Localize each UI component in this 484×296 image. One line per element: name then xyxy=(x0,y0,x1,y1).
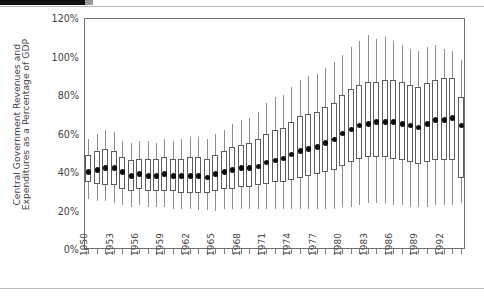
x-axis-tick xyxy=(461,249,462,254)
x-axis-tick xyxy=(351,249,352,254)
x-axis-tick-label: 1953 xyxy=(105,233,115,256)
x-axis-tick-label: 1974 xyxy=(282,233,292,256)
y-axis-tick-label: 120% xyxy=(52,13,79,24)
x-axis-tick xyxy=(97,249,98,254)
box-iqr xyxy=(458,97,463,178)
x-axis-tick-label: 1971 xyxy=(257,233,267,256)
chart-page: Central Government Revenues and Expendit… xyxy=(0,0,484,296)
x-axis-tick-label: 1950 xyxy=(79,233,89,256)
x-axis-tick-label: 1992 xyxy=(435,233,445,256)
x-axis-tick-label: 1980 xyxy=(333,233,343,256)
x-axis-tick-label: 1989 xyxy=(409,233,419,256)
y-axis-tick-label: 80% xyxy=(58,90,79,101)
x-axis-tick xyxy=(300,249,301,254)
y-axis-tick-label: 20% xyxy=(58,205,79,216)
x-axis-tick xyxy=(427,249,428,254)
plot-canvas xyxy=(84,18,465,249)
x-axis-tick-label: 1986 xyxy=(384,233,394,256)
y-axis-title: Central Government Revenues and Expendit… xyxy=(0,0,44,250)
y-axis-tick-label: 40% xyxy=(58,167,79,178)
y-axis-title-line-2: Expenditures as a Percentage of GDP xyxy=(21,39,30,210)
x-axis-tick xyxy=(402,249,403,254)
x-axis-labels: 1950195319561959196219651968197119741977… xyxy=(0,256,484,290)
y-axis-tick-label: 100% xyxy=(52,51,79,62)
x-axis-tick xyxy=(122,249,123,254)
x-axis-tick-label: 1959 xyxy=(155,233,165,256)
x-axis-tick-label: 1956 xyxy=(130,233,140,256)
x-axis-tick xyxy=(173,249,174,254)
x-axis-tick xyxy=(148,249,149,254)
x-axis-tick xyxy=(452,249,453,254)
x-axis-tick-label: 1983 xyxy=(359,233,369,256)
bottom-horizontal-rule xyxy=(0,288,484,289)
x-axis-tick xyxy=(376,249,377,254)
x-axis-tick xyxy=(325,249,326,254)
x-axis-tick xyxy=(224,249,225,254)
x-axis-tick xyxy=(275,249,276,254)
x-axis-tick xyxy=(249,249,250,254)
x-axis-tick-label: 1977 xyxy=(308,233,318,256)
x-axis-tick-label: 1968 xyxy=(232,233,242,256)
x-axis-tick-label: 1965 xyxy=(206,233,216,256)
box-whisker-group xyxy=(84,18,465,249)
x-axis-tick-label: 1962 xyxy=(181,233,191,256)
x-axis-tick xyxy=(198,249,199,254)
y-axis-tick-label: 60% xyxy=(58,128,79,139)
